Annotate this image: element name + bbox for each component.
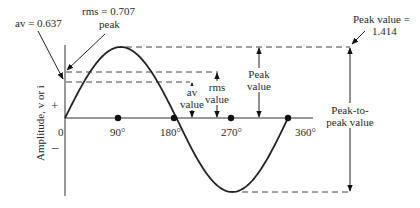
tick-dot-90: [115, 115, 121, 121]
av-ratio-label: av = 0.637: [15, 17, 62, 29]
tick-dot-180: [171, 115, 177, 121]
tick-label-360: 360°: [295, 126, 316, 138]
peak-value-label-line1: Peak: [248, 68, 270, 80]
negative-sign: –: [51, 139, 59, 154]
peak-ratio-label-line2: 1.414: [372, 25, 397, 37]
peak-value-label-line2: value: [247, 80, 271, 92]
rms-ratio-label-line1: rms = 0.707: [82, 5, 135, 17]
tick-label-270: 270°: [221, 126, 242, 138]
av-value-label-line2: value: [180, 98, 204, 110]
origin-label: 0: [58, 126, 64, 138]
rms-ratio-label-line2: peak: [99, 18, 120, 30]
av-value-label-line1: av: [187, 86, 198, 98]
rms-value-label-line1: rms: [209, 81, 226, 93]
tick-label-90: 90°: [110, 126, 125, 138]
peak-to-peak-label-line2: peak value: [326, 116, 373, 128]
tick-dot-270: [228, 115, 234, 121]
av-ratio-pointer: [38, 31, 63, 79]
peak-to-peak-label-line1: Peak-to-: [331, 104, 369, 116]
peak-ratio-label-line1: Peak value =: [353, 13, 410, 25]
rms-value-label-line2: value: [205, 93, 229, 105]
tick-dot-360: [285, 115, 291, 121]
tick-label-180: 180°: [160, 126, 181, 138]
rms-ratio-pointer: [67, 34, 105, 70]
y-axis-label: Amplitude, v or i: [34, 85, 46, 161]
peak-ratio-pointer: [352, 31, 365, 44]
positive-sign: +: [51, 98, 58, 113]
sine-wave-diagram: 0 90° 180° 270° 360° Amplitude, v or i +…: [0, 0, 420, 208]
